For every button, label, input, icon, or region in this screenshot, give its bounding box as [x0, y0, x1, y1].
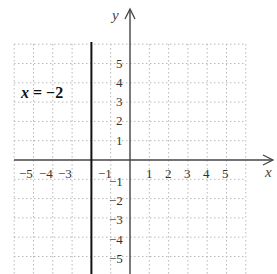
- svg-text:−5: −5: [109, 251, 123, 266]
- svg-text:−2: −2: [109, 193, 123, 208]
- svg-text:4: 4: [203, 166, 210, 181]
- y-axis: [125, 9, 135, 274]
- svg-text:−4: −4: [109, 232, 123, 247]
- svg-text:3: 3: [184, 166, 191, 181]
- svg-text:2: 2: [165, 166, 172, 181]
- svg-text:1: 1: [116, 133, 123, 148]
- x-tick-labels: −5 −4 −3 −1 1 2 3 4 5: [19, 166, 229, 181]
- svg-text:−3: −3: [109, 212, 123, 227]
- svg-text:3: 3: [116, 94, 123, 109]
- svg-text:4: 4: [116, 75, 123, 90]
- svg-text:5: 5: [222, 166, 229, 181]
- svg-text:2: 2: [116, 113, 123, 128]
- equation-label: x = −2: [20, 84, 63, 101]
- svg-text:1: 1: [146, 166, 153, 181]
- coordinate-plane: y x x = −2 −5 −4 −3 −1 1 2 3 4 5 5 4 3 2…: [0, 0, 277, 274]
- svg-text:−5: −5: [19, 166, 33, 181]
- svg-text:−4: −4: [39, 166, 53, 181]
- chart-canvas: y x x = −2 −5 −4 −3 −1 1 2 3 4 5 5 4 3 2…: [0, 0, 277, 274]
- svg-text:−1: −1: [109, 174, 123, 189]
- svg-text:−3: −3: [58, 166, 72, 181]
- svg-text:5: 5: [116, 56, 123, 71]
- y-axis-label: y: [110, 7, 119, 23]
- x-axis-label: x: [264, 164, 272, 180]
